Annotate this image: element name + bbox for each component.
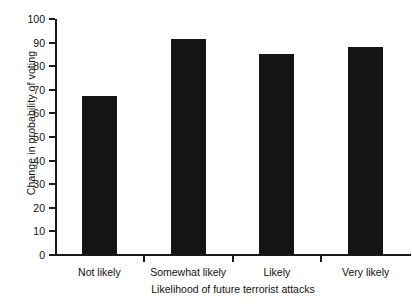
bar [259,54,294,255]
x-axis-title: Likelihood of future terrorist attacks [55,283,411,295]
y-tick-label: 70 [15,85,45,95]
y-tick-label: 80 [15,61,45,71]
bar [171,39,206,255]
y-tick-mark [49,65,55,67]
y-tick-label: 10 [15,226,45,236]
x-category-label: Very likely [306,266,412,278]
y-tick-label: 0 [15,250,45,260]
x-tick-mark [232,256,234,262]
y-tick-mark [49,89,55,91]
y-tick-mark [49,112,55,114]
x-tick-mark [143,256,145,262]
y-tick-mark [49,254,55,256]
y-tick-label: 100 [15,14,45,24]
y-axis-line [55,19,57,256]
y-tick-mark [49,183,55,185]
y-tick-label: 20 [15,203,45,213]
y-tick-label: 40 [15,156,45,166]
y-tick-label: 60 [15,108,45,118]
y-tick-mark [49,230,55,232]
y-tick-label: 50 [15,132,45,142]
x-tick-mark [320,256,322,262]
bar [82,96,117,255]
y-tick-mark [49,136,55,138]
y-tick-mark [49,42,55,44]
bar [348,47,383,255]
y-tick-mark [49,207,55,209]
bar-chart: Change in probability of voting 01020304… [0,0,412,304]
y-tick-label: 30 [15,179,45,189]
y-tick-mark [49,160,55,162]
y-tick-mark [49,18,55,20]
y-tick-label: 90 [15,38,45,48]
